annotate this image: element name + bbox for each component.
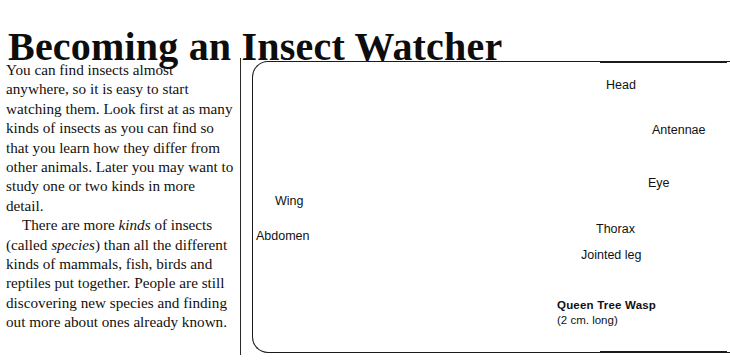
label-wing: Wing	[275, 194, 303, 208]
illustration-caption: Queen Tree Wasp (2 cm. long)	[557, 298, 656, 327]
article-paragraph-1: You can find insects almost anywhere, so…	[6, 60, 234, 215]
article-paragraph-1-text: You can find insects almost anywhere, so…	[6, 61, 233, 214]
article-emphasis-kinds: kinds	[119, 216, 151, 233]
illustration-frame-bottom-rule	[600, 351, 727, 353]
label-eye: Eye	[648, 176, 670, 190]
label-antennae: Antennae	[652, 123, 706, 137]
label-thorax: Thorax	[596, 222, 635, 236]
article-text-column: You can find insects almost anywhere, so…	[6, 60, 234, 355]
article-paragraph-2-text-a: There are more	[22, 216, 119, 233]
article-emphasis-species: species	[51, 236, 95, 253]
illustration-frame	[252, 61, 730, 353]
label-jointed-leg: Jointed leg	[581, 248, 641, 262]
label-abdomen: Abdomen	[256, 229, 310, 243]
illustration-frame-top-rule	[600, 61, 727, 63]
column-divider	[240, 58, 241, 355]
caption-species-name: Queen Tree Wasp	[557, 298, 656, 312]
label-head: Head	[606, 78, 636, 92]
caption-size-note: (2 cm. long)	[557, 313, 656, 327]
article-paragraph-2: There are more kinds of insects (called …	[6, 215, 234, 331]
